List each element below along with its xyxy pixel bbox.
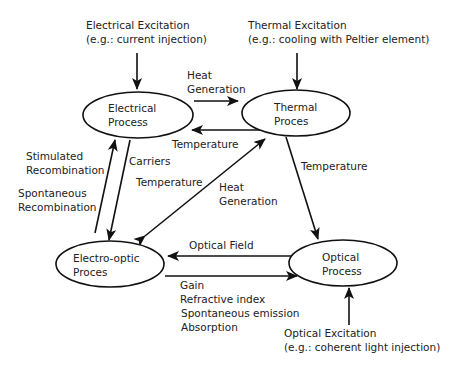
node-electro-optic-process: Electro-optic Proces xyxy=(56,241,164,287)
refractive-index-label: Refractive index xyxy=(180,293,265,305)
electro-optic-process-ellipse xyxy=(56,241,164,287)
process-interaction-diagram: Electrical Excitation (e.g.: current inj… xyxy=(0,0,458,372)
node-electrical-process: Electrical Process xyxy=(83,92,193,138)
thermal-to-electro-optic-label: Temperature xyxy=(135,176,203,188)
thermal-process-label-line2: Proces xyxy=(274,115,308,127)
stimulated-recombination-label-line1: Stimulated xyxy=(26,150,83,162)
thermal-excitation-label: Thermal Excitation (e.g.: cooling with P… xyxy=(247,19,429,45)
optical-process-ellipse xyxy=(289,240,397,286)
electrical-excitation-title: Electrical Excitation xyxy=(86,19,190,31)
electrical-process-label-line1: Electrical xyxy=(108,102,156,114)
stimulated-recombination-label-line2: Recombination xyxy=(26,164,105,176)
spontaneous-recombination-label-line2: Recombination xyxy=(18,201,97,213)
optical-excitation-example: (e.g.: coherent light injection) xyxy=(284,341,440,353)
thermal-excitation-title: Thermal Excitation xyxy=(247,19,347,31)
electro-optic-to-thermal-label-line2: Generation xyxy=(219,195,278,207)
spontaneous-recombination-label-line1: Spontaneous xyxy=(18,187,87,199)
thermal-process-ellipse xyxy=(242,90,350,136)
optical-excitation-label: Optical Excitation (e.g.: coherent light… xyxy=(284,327,440,353)
electro-optic-process-label-line1: Electro-optic xyxy=(73,252,140,264)
electro-optic-to-electrical-arrow xyxy=(95,140,115,233)
thermal-to-electrical-label: Temperature xyxy=(171,138,239,150)
electro-optic-to-thermal-label-line1: Heat xyxy=(219,181,244,193)
electrical-excitation-label: Electrical Excitation (e.g.: current inj… xyxy=(86,19,207,45)
electrical-process-ellipse xyxy=(83,92,193,138)
optical-process-label-line2: Process xyxy=(322,265,362,277)
electrical-process-label-line2: Process xyxy=(108,116,148,128)
optical-excitation-title: Optical Excitation xyxy=(284,327,376,339)
node-optical-process: Optical Process xyxy=(289,240,397,286)
electrical-excitation-example: (e.g.: current injection) xyxy=(86,33,207,45)
electrical-to-thermal-label-line2: Generation xyxy=(187,83,246,95)
optical-field-label: Optical Field xyxy=(189,239,254,251)
thermal-process-label-line1: Thermal xyxy=(273,101,317,113)
absorption-label: Absorption xyxy=(181,321,238,333)
gain-label: Gain xyxy=(180,279,204,291)
node-thermal-process: Thermal Proces xyxy=(242,90,350,136)
thermal-to-optical-arrow xyxy=(286,137,318,239)
thermal-excitation-example: (e.g.: cooling with Peltier element) xyxy=(248,33,429,45)
thermal-to-optical-label: Temperature xyxy=(300,160,368,172)
spontaneous-emission-label: Spontaneous emission xyxy=(181,307,300,319)
electrical-to-thermal-label-line1: Heat xyxy=(187,69,212,81)
optical-process-label-line1: Optical xyxy=(322,251,359,263)
electrical-to-electro-optic-label: Carriers xyxy=(129,155,170,167)
electro-optic-process-label-line2: Proces xyxy=(73,266,107,278)
